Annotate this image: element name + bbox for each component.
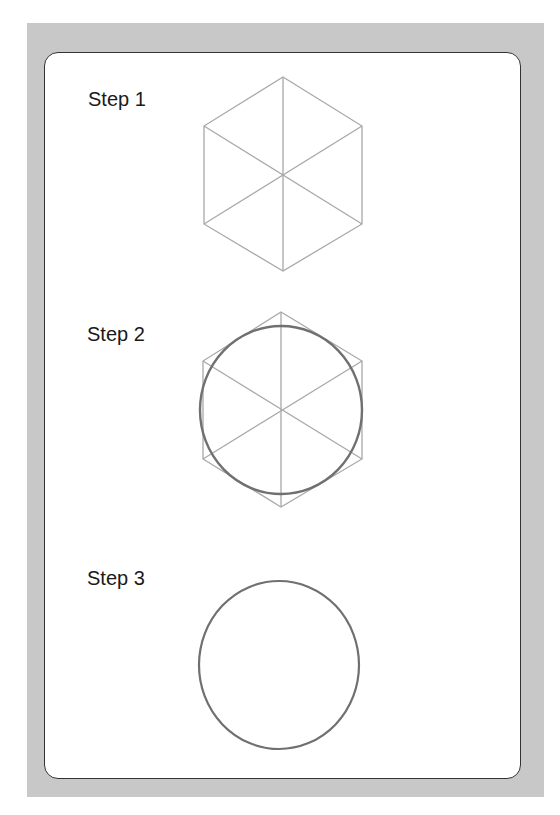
step-1-hexagon [204, 77, 362, 271]
step-3-circle [199, 581, 359, 749]
step-2-hexagon [203, 312, 362, 507]
construction-drawing [0, 0, 560, 815]
